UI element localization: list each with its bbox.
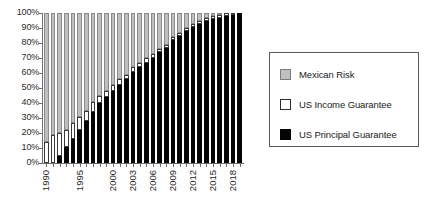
bar-segment-us-principal-guarantee (97, 103, 102, 163)
bar-1992 (57, 13, 62, 163)
bar-segment-us-income-guarantee (217, 15, 222, 18)
bar-segment-us-principal-guarantee (184, 31, 189, 163)
bar-segment-mexican-risk (157, 13, 162, 49)
y-axis-tick-label: 10% (3, 143, 39, 152)
x-axis-tick-label: 1995 (75, 170, 85, 191)
bar-segment-mexican-risk (51, 13, 56, 135)
bar-segment-us-income-guarantee (91, 102, 96, 113)
legend-item-label: US Income Guarantee (299, 99, 392, 110)
bar-segment-us-principal-guarantee (84, 121, 89, 163)
x-axis-tick-mark (240, 164, 241, 167)
bar-segment-us-principal-guarantee (57, 156, 62, 164)
bar-segment-us-income-guarantee (164, 45, 169, 48)
bar-segment-mexican-risk (171, 13, 176, 37)
bar-2011 (184, 13, 189, 163)
x-axis-tick-label: 2015 (208, 170, 218, 191)
bar-segment-us-principal-guarantee (77, 130, 82, 163)
bar-segment-us-income-guarantee (157, 49, 162, 52)
x-axis-tick-mark (160, 164, 161, 167)
bar-2015 (211, 13, 216, 163)
x-axis-tick-mark (200, 164, 201, 167)
bar-segment-us-income-guarantee (137, 63, 142, 68)
x-axis-tick-label: 1990 (41, 170, 51, 191)
x-axis-tick-mark (146, 164, 147, 167)
bar-segment-us-principal-guarantee (144, 63, 149, 164)
bar-segment-us-income-guarantee (97, 96, 102, 104)
bar-2014 (204, 13, 209, 163)
stacked-bar-chart-figure: 0%10%20%30%40%50%60%70%80%90%100% 199019… (0, 0, 431, 224)
bar-segment-us-income-guarantee (44, 142, 49, 163)
bar-2001 (117, 13, 122, 163)
x-axis-tick-label: 2003 (128, 170, 138, 191)
bar-2004 (137, 13, 142, 163)
y-axis-tick-mark (39, 43, 43, 44)
bar-segment-us-income-guarantee (177, 33, 182, 36)
bar-segment-us-income-guarantee (71, 123, 76, 140)
x-axis-tick-mark (86, 164, 87, 167)
y-axis-tick-mark (39, 133, 43, 134)
bar-segment-us-income-guarantee (51, 135, 56, 164)
bar-segment-us-income-guarantee (151, 54, 156, 59)
bar-segment-mexican-risk (124, 13, 129, 75)
y-axis-tick-mark (39, 13, 43, 14)
bar-segment-mexican-risk (144, 13, 149, 58)
bar-segment-us-income-guarantee (204, 18, 209, 21)
bar-segment-mexican-risk (197, 13, 202, 21)
bar-1993 (64, 13, 69, 163)
bar-1991 (51, 13, 56, 163)
x-axis-tick-mark (233, 164, 234, 167)
bar-segment-us-principal-guarantee (131, 72, 136, 164)
bar-segment-mexican-risk (104, 13, 109, 91)
bar-1997 (91, 13, 96, 163)
x-axis-tick-label: 2012 (188, 170, 198, 191)
bar-segment-us-income-guarantee (224, 13, 229, 16)
bar-segment-mexican-risk (191, 13, 196, 24)
bar-segment-mexican-risk (117, 13, 122, 79)
x-axis-tick-mark (206, 164, 207, 167)
bar-segment-us-principal-guarantee (151, 58, 156, 163)
legend-item: US Principal Guarantee (280, 127, 397, 141)
legend-item-label: US Principal Guarantee (299, 129, 397, 140)
x-axis-tick-mark (180, 164, 181, 167)
bar-2008 (164, 13, 169, 163)
x-axis-tick-mark (126, 164, 127, 167)
y-axis-tick-mark (39, 58, 43, 59)
bar-segment-mexican-risk (44, 13, 49, 142)
bar-segment-mexican-risk (64, 13, 69, 130)
x-axis-tick-mark (106, 164, 107, 167)
x-axis-tick-label: 2006 (148, 170, 158, 191)
bar-1999 (104, 13, 109, 163)
y-axis-tick-label: 60% (3, 68, 39, 77)
bar-segment-mexican-risk (177, 13, 182, 33)
bar-segment-mexican-risk (217, 13, 222, 15)
bar-segment-us-principal-guarantee (224, 16, 229, 163)
x-axis-tick-mark (60, 164, 61, 167)
x-axis-tick-label: 2018 (228, 170, 238, 191)
bar-segment-mexican-risk (184, 13, 189, 28)
bar-segment-us-income-guarantee (64, 130, 69, 147)
x-axis-tick-mark (46, 164, 47, 167)
bar-segment-us-income-guarantee (57, 133, 62, 156)
y-axis-tick-label: 0% (3, 158, 39, 167)
bar-segment-mexican-risk (91, 13, 96, 102)
legend-item: US Income Guarantee (280, 97, 392, 111)
bar-2013 (197, 13, 202, 163)
y-axis-tick-mark (39, 163, 43, 164)
bar-segment-mexican-risk (131, 13, 136, 67)
x-axis-tick-mark (186, 164, 187, 167)
x-axis-tick-mark (220, 164, 221, 167)
x-axis-tick-mark (140, 164, 141, 167)
bar-2017 (224, 13, 229, 163)
bar-2000 (111, 13, 116, 163)
bar-segment-us-principal-guarantee (177, 36, 182, 164)
bar-segment-mexican-risk (77, 13, 82, 117)
y-axis-tick-mark (39, 103, 43, 104)
bar-segment-us-principal-guarantee (104, 97, 109, 163)
y-axis-tick-label: 50% (3, 83, 39, 92)
bar-segment-mexican-risk (151, 13, 156, 54)
bar-segment-us-principal-guarantee (71, 139, 76, 163)
y-axis-tick-label: 80% (3, 38, 39, 47)
legend-swatch-mexican-risk (280, 69, 291, 80)
bar-segment-us-income-guarantee (211, 16, 216, 19)
bar-segment-mexican-risk (84, 13, 89, 111)
